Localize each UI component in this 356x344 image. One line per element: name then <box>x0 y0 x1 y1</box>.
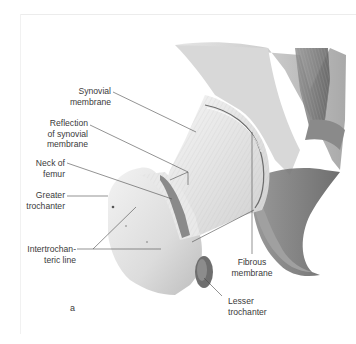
label-line: membrane <box>60 97 111 108</box>
label-line: Intertrochan- <box>14 244 76 255</box>
label-line: Synovial <box>60 86 111 97</box>
label-line: Fibrous <box>226 257 278 268</box>
label-fibrous-membrane: Fibrous membrane <box>226 257 278 278</box>
label-line: femur <box>20 169 65 180</box>
label-line: membrane <box>36 139 88 150</box>
label-line: Lesser <box>228 296 288 307</box>
label-line: Neck of <box>20 158 65 169</box>
panel-letter: a <box>70 303 75 314</box>
leader-synovial-membrane <box>113 92 196 132</box>
label-line: Reflection <box>36 118 88 129</box>
label-lesser-trochanter: Lesser trochanter <box>228 296 288 317</box>
label-reflection-synovial: Reflection of synovial membrane <box>36 118 88 150</box>
label-line: trochanter <box>14 201 65 212</box>
label-greater-trochanter: Greater trochanter <box>14 190 65 211</box>
label-synovial-membrane: Synovial membrane <box>60 86 111 107</box>
label-line: teric line <box>14 255 76 266</box>
label-intertrochanteric-line: Intertrochan- teric line <box>14 244 76 265</box>
label-neck-of-femur: Neck of femur <box>20 158 65 179</box>
label-line: of synovial <box>36 129 88 140</box>
leader-reflection-synovial <box>90 125 188 172</box>
label-line: Greater <box>14 190 65 201</box>
label-line: membrane <box>226 268 278 279</box>
label-line: trochanter <box>228 307 288 318</box>
